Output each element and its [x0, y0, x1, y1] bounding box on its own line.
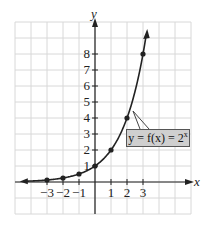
curve-right-arrow-icon [143, 29, 150, 39]
data-point [124, 115, 129, 120]
y-tick-label: 6 [84, 78, 91, 93]
function-label-box: y = f(x) = 2x [126, 129, 190, 147]
data-point [60, 175, 65, 180]
x-tick-label: −1 [72, 185, 86, 200]
data-point [76, 171, 81, 176]
x-axis-arrow-icon [185, 179, 194, 185]
data-point [92, 163, 97, 168]
label-pointer-2 [133, 111, 149, 129]
function-label-exponent: x [184, 130, 188, 139]
y-tick-label: 8 [84, 46, 91, 61]
y-tick-label: 7 [84, 62, 91, 77]
x-tick-label: 2 [124, 185, 131, 200]
function-label: y = f(x) = 2 [128, 131, 184, 145]
x-tick-label: 1 [108, 185, 115, 200]
x-axis-label: x [193, 174, 200, 189]
curve-left-arrow-icon [20, 178, 28, 184]
y-tick-label: 4 [84, 110, 91, 125]
data-point [44, 177, 49, 182]
data-point [140, 51, 145, 56]
x-tick-label: 3 [140, 185, 147, 200]
y-tick-label: 5 [84, 94, 91, 109]
y-axis-label: y [89, 6, 97, 21]
ticks: −3−2−112312345678 [40, 46, 146, 200]
y-tick-label: 3 [84, 126, 91, 141]
label-pointer-1 [133, 111, 140, 129]
exponential-graph: −3−2−112312345678 y x [0, 0, 207, 228]
x-tick-label: −3 [40, 185, 54, 200]
x-tick-label: −2 [56, 185, 70, 200]
data-point [108, 147, 113, 152]
y-tick-label: 2 [84, 142, 91, 157]
